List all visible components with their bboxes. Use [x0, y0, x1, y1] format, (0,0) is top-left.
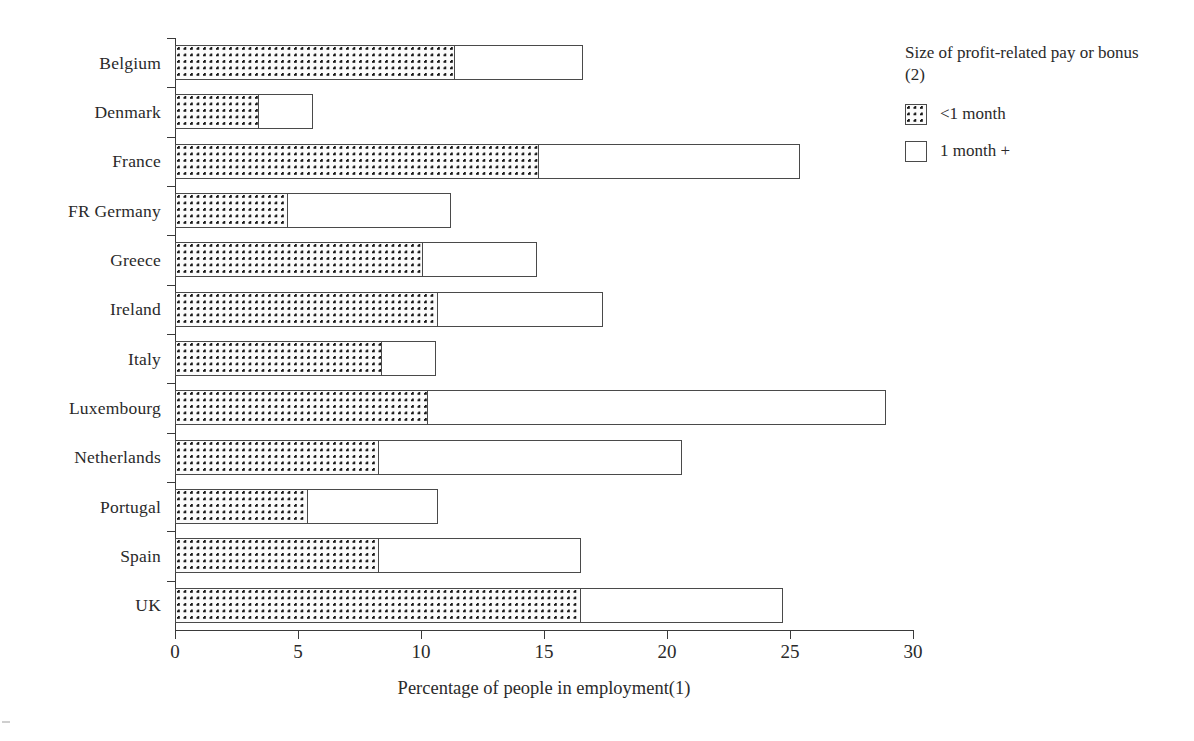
legend-label-1-month-plus: 1 month +: [940, 141, 1010, 161]
bar-row: Portugal: [175, 482, 913, 531]
bar-segment-under-1-month: [175, 292, 438, 327]
category-label: Netherlands: [74, 447, 161, 468]
x-axis-tick: [298, 630, 299, 639]
bar-segment-1-month-plus: [287, 193, 450, 228]
bar-segment-1-month-plus: [307, 489, 438, 524]
bar-row: UK: [175, 581, 913, 630]
bar-segment-1-month-plus: [422, 242, 536, 277]
stacked-bar: [175, 144, 800, 179]
white-swatch-icon: [905, 141, 927, 162]
bar-segment-under-1-month: [175, 390, 428, 425]
bar-segment-1-month-plus: [427, 390, 886, 425]
y-axis-tick: [167, 38, 175, 39]
x-axis-tick-label: 25: [781, 641, 800, 663]
stacked-bar: [175, 440, 682, 475]
bar-segment-1-month-plus: [437, 292, 603, 327]
bar-segment-1-month-plus: [580, 588, 783, 623]
bar-segment-under-1-month: [175, 242, 423, 277]
bar-segment-1-month-plus: [258, 94, 313, 129]
category-label: Greece: [110, 249, 161, 270]
stacked-bar: [175, 341, 436, 376]
x-axis-tick: [544, 630, 545, 639]
y-axis-tick: [167, 334, 175, 335]
y-axis-tick: [167, 137, 175, 138]
bar-row: Denmark: [175, 87, 913, 136]
bar-segment-under-1-month: [175, 341, 382, 376]
bar-segment-under-1-month: [175, 144, 539, 179]
bar-segment-under-1-month: [175, 440, 379, 475]
category-label: FR Germany: [68, 200, 161, 221]
stacked-bar: [175, 588, 783, 623]
bar-row: Italy: [175, 334, 913, 383]
bar-segment-1-month-plus: [381, 341, 436, 376]
bar-row: Luxembourg: [175, 383, 913, 432]
stacked-bar: [175, 489, 438, 524]
bar-row: FR Germany: [175, 186, 913, 235]
stacked-bar: [175, 390, 886, 425]
category-label: France: [112, 151, 161, 172]
bar-row: Greece: [175, 235, 913, 284]
x-axis-tick: [175, 630, 176, 639]
x-axis-tick-label: 30: [904, 641, 923, 663]
bar-row: France: [175, 137, 913, 186]
category-label: Belgium: [99, 52, 161, 73]
dotted-swatch-icon: [905, 104, 927, 125]
x-axis-tick-label: 15: [535, 641, 554, 663]
bar-row: Netherlands: [175, 433, 913, 482]
bar-segment-1-month-plus: [454, 45, 583, 80]
stacked-bar: [175, 242, 537, 277]
category-label: Denmark: [94, 101, 161, 122]
legend-item-1-month-plus: 1 month +: [905, 141, 1185, 162]
bar-segment-1-month-plus: [538, 144, 800, 179]
x-axis-tick: [667, 630, 668, 639]
category-label: Spain: [120, 545, 161, 566]
category-label: Portugal: [100, 496, 161, 517]
y-axis-tick: [167, 383, 175, 384]
stacked-bar: [175, 45, 583, 80]
bar-segment-under-1-month: [175, 588, 581, 623]
category-label: Luxembourg: [69, 397, 161, 418]
y-axis-tick: [167, 433, 175, 434]
y-axis-tick: [167, 285, 175, 286]
bar-chart: BelgiumDenmarkFranceFR GermanyGreeceIrel…: [0, 0, 1194, 741]
x-axis-tick-label: 20: [658, 641, 677, 663]
y-axis-tick: [167, 482, 175, 483]
x-axis-tick-label: 5: [293, 641, 303, 663]
legend-label-under-1-month: <1 month: [940, 104, 1006, 124]
legend-item-under-1-month: <1 month: [905, 104, 1185, 125]
bar-segment-1-month-plus: [378, 538, 581, 573]
bar-row: Spain: [175, 531, 913, 580]
x-axis-tick-label: 10: [412, 641, 431, 663]
category-label: Ireland: [110, 299, 161, 320]
scan-edge-mark: [2, 721, 10, 723]
y-axis-tick: [167, 87, 175, 88]
bar-segment-under-1-month: [175, 94, 259, 129]
x-axis-tick: [913, 630, 914, 639]
y-axis-tick: [167, 581, 175, 582]
category-label: UK: [135, 595, 161, 616]
bar-row: Ireland: [175, 285, 913, 334]
bar-segment-under-1-month: [175, 538, 379, 573]
y-axis-tick: [167, 235, 175, 236]
legend: Size of profit-related pay or bonus (2) …: [905, 42, 1185, 178]
y-axis-tick: [167, 531, 175, 532]
y-axis-tick: [167, 186, 175, 187]
bar-segment-under-1-month: [175, 193, 288, 228]
bar-row: Belgium: [175, 38, 913, 87]
stacked-bar: [175, 538, 581, 573]
category-label: Italy: [128, 348, 161, 369]
x-axis-tick-label: 0: [170, 641, 180, 663]
x-axis-tick: [421, 630, 422, 639]
bar-segment-under-1-month: [175, 45, 455, 80]
plot-area: BelgiumDenmarkFranceFR GermanyGreeceIrel…: [175, 38, 913, 630]
x-axis-title: Percentage of people in employment(1): [175, 678, 913, 699]
x-axis-tick: [790, 630, 791, 639]
stacked-bar: [175, 292, 603, 327]
bar-segment-under-1-month: [175, 489, 308, 524]
bar-segment-1-month-plus: [378, 440, 682, 475]
stacked-bar: [175, 193, 451, 228]
stacked-bar: [175, 94, 313, 129]
legend-title: Size of profit-related pay or bonus (2): [905, 42, 1155, 86]
